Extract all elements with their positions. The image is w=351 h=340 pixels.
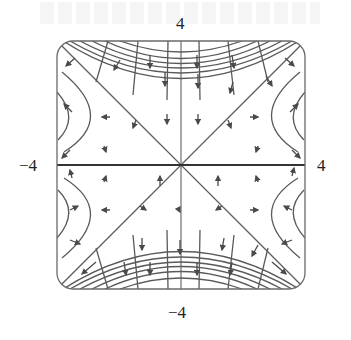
- arrow-icon: [256, 146, 258, 152]
- bottom-radial-lines: [96, 230, 268, 289]
- top-radial-2: [167, 41, 168, 100]
- phase-portrait-plot: [0, 0, 351, 340]
- arrow-icon: [104, 176, 106, 182]
- arrow-icon: [133, 120, 136, 128]
- bottom-radial-2: [167, 230, 168, 289]
- arrow-icon: [216, 206, 222, 210]
- right-lower-outer-arc: [271, 178, 300, 258]
- arrow-icon: [285, 58, 294, 66]
- arrow-icon: [292, 168, 294, 176]
- arrow-icon: [252, 245, 258, 256]
- right-upper-inner-arc: [293, 92, 305, 140]
- right-lower-inner-arc: [293, 190, 305, 238]
- top-radial-3: [199, 41, 200, 100]
- arrow-icon: [178, 208, 180, 212]
- top-radial-5: [96, 41, 108, 82]
- arrow-icon: [222, 238, 224, 250]
- arrow-icon: [140, 206, 146, 210]
- left-lower-outer-arc: [62, 178, 91, 258]
- bottom-radial-4: [228, 235, 234, 289]
- arrow-icon: [284, 206, 292, 210]
- bottom-radial-5: [96, 248, 108, 289]
- left-upper-inner-arc: [57, 92, 69, 140]
- right-upper-outer-arc: [271, 72, 300, 152]
- bottom-radial-3: [199, 230, 200, 289]
- arrow-icon: [124, 262, 126, 275]
- arrow-icon: [228, 120, 231, 128]
- top-radial-lines: [96, 41, 268, 100]
- left-upper-outer-arc: [62, 72, 91, 152]
- arrow-icon: [66, 58, 75, 66]
- arrow-icon: [70, 170, 72, 178]
- arrow-icon: [256, 176, 258, 182]
- left-lower-inner-arc: [57, 190, 69, 238]
- arrow-icon: [70, 206, 78, 210]
- arrow-icon: [104, 146, 106, 152]
